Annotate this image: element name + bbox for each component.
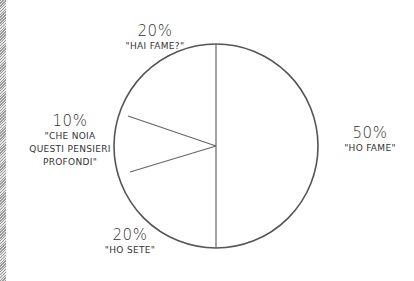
label-ho-fame: 50% "HO FAME" xyxy=(325,124,414,155)
percent-hai-fame: 20% xyxy=(95,22,215,40)
text-che-noia-2: QUESTI PENSIERI xyxy=(20,143,120,156)
label-ho-sete: 20% "HO SETE" xyxy=(80,226,180,257)
text-che-noia-1: "CHE NOIA xyxy=(20,130,120,143)
divider-lower-left xyxy=(130,146,216,172)
divider-upper-left xyxy=(128,116,216,146)
percent-ho-fame: 50% xyxy=(325,124,414,142)
text-che-noia-3: PROFONDI" xyxy=(20,156,120,169)
text-ho-fame: "HO FAME" xyxy=(325,142,414,155)
text-ho-sete: "HO SETE" xyxy=(80,244,180,257)
label-che-noia: 10% "CHE NOIA QUESTI PENSIERI PROFONDI" xyxy=(20,112,120,169)
label-hai-fame: 20% "HAI FAME?" xyxy=(95,22,215,53)
percent-che-noia: 10% xyxy=(20,112,120,130)
percent-ho-sete: 20% xyxy=(80,226,180,244)
text-hai-fame: "HAI FAME?" xyxy=(95,40,215,53)
